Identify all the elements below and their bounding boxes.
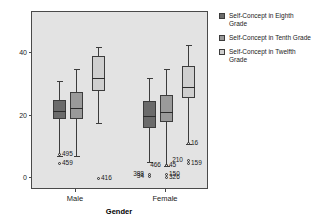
- box-rect: [92, 56, 105, 90]
- y-tick-label: 0: [23, 174, 27, 181]
- box-series-3: 41616210159: [32, 12, 207, 188]
- x-tick-label: Female: [152, 194, 177, 203]
- median-line: [92, 78, 105, 79]
- x-axis-title: Gender: [106, 207, 132, 216]
- plot-panel: 495459388344664515032641616210159: [31, 11, 208, 189]
- outlier-label: 16: [191, 140, 198, 147]
- boxplot-figure: 02040 495459388344664515032641616210159 …: [0, 0, 315, 224]
- x-tick-label: Male: [67, 194, 83, 203]
- legend-item-1[interactable]: Self-Concept in Eighth Grade: [219, 12, 313, 28]
- whisker-upper: [98, 47, 99, 56]
- y-tick-label: 40: [19, 49, 27, 56]
- y-tick-label: 20: [19, 111, 27, 118]
- x-tick-mark: [75, 189, 76, 192]
- legend-swatch-icon: [219, 13, 225, 19]
- x-tick-mark: [165, 189, 166, 192]
- whisker-lower: [188, 98, 189, 143]
- whisker-lower: [98, 91, 99, 124]
- box-rect: [182, 66, 195, 99]
- whisker-cap-upper: [96, 47, 102, 48]
- outlier-point: [187, 142, 190, 145]
- plot-area: 495459388344664515032641616210159: [32, 12, 207, 188]
- outlier-point: [97, 177, 100, 180]
- legend-label: Self-Concept in Twelfth Grade: [229, 48, 313, 64]
- chart-legend: Self-Concept in Eighth GradeSelf-Concept…: [219, 12, 313, 70]
- legend-label: Self-Concept in Tenth Grade: [229, 34, 311, 42]
- whisker-cap-lower: [96, 123, 102, 124]
- whisker-upper: [188, 45, 189, 65]
- legend-label: Self-Concept in Eighth Grade: [229, 12, 313, 28]
- outlier-point: [187, 162, 190, 165]
- median-line: [182, 87, 195, 88]
- outlier-label: 416: [101, 175, 112, 182]
- legend-swatch-icon: [219, 49, 225, 55]
- legend-item-2[interactable]: Self-Concept in Tenth Grade: [219, 34, 313, 42]
- whisker-cap-upper: [186, 45, 192, 46]
- outlier-label: 210: [172, 157, 183, 164]
- legend-item-3[interactable]: Self-Concept in Twelfth Grade: [219, 48, 313, 64]
- legend-swatch-icon: [219, 35, 225, 41]
- outlier-label: 159: [191, 160, 202, 167]
